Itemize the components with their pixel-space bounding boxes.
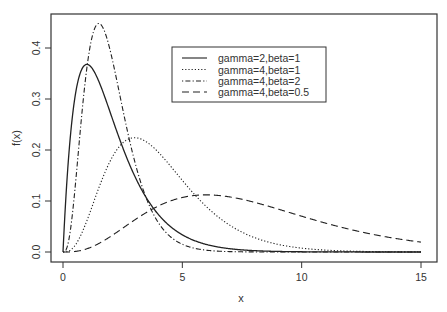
y-tick-label: 0.3	[30, 92, 42, 107]
y-tick-label: 0.0	[30, 245, 42, 260]
y-tick-label: 0.4	[30, 41, 42, 56]
legend: gamma=2,beta=1gamma=4,beta=1gamma=4,beta…	[172, 47, 326, 102]
x-tick-label: 5	[179, 271, 185, 283]
legend-label: gamma=4,beta=1	[218, 64, 300, 76]
gamma-density-chart: 0.00.10.20.30.4 051015 x f(x) gamma=2,be…	[0, 0, 447, 312]
x-tick-label: 15	[415, 271, 427, 283]
x-axis-label: x	[238, 292, 244, 304]
x-tick-label: 10	[296, 271, 308, 283]
curve-gamma-4-beta-0-5	[63, 195, 421, 252]
legend-label: gamma=2,beta=1	[218, 52, 300, 64]
y-tick-label: 0.1	[30, 194, 42, 209]
y-tick-label: 0.2	[30, 143, 42, 158]
curve-gamma-4-beta-1	[63, 138, 421, 252]
y-axis: 0.00.10.20.30.4	[30, 41, 51, 260]
x-axis: 051015	[60, 262, 427, 283]
y-axis-label: f(x)	[10, 130, 22, 146]
legend-label: gamma=4,beta=0.5	[218, 86, 309, 98]
x-tick-label: 0	[60, 271, 66, 283]
